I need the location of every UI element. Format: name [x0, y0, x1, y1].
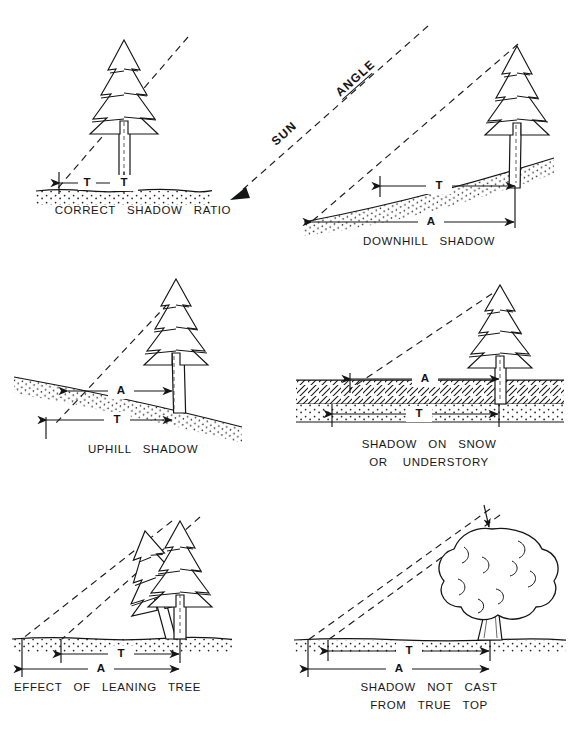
panel-uphill-shadow-caption: UPHILL SHADOW [0, 443, 286, 455]
dimension-T-label: T [117, 647, 124, 659]
panel-shadow-not-cast-caption-1: SHADOW NOT CAST [286, 681, 572, 693]
conifer-tree [90, 40, 158, 191]
panel-uphill-shadow: A T UPHILL SHADOW [0, 275, 286, 475]
dimension-T-label: T [405, 644, 412, 656]
panel-shadow-on-snow-caption-2: OR UNDERSTORY [286, 456, 572, 468]
dimension-T-label: T [120, 176, 127, 188]
panel-downhill-shadow: T A DOWNHILL SHADOW [286, 22, 572, 252]
dimension-T-label-center: T [83, 176, 90, 188]
panel-downhill-shadow-caption: DOWNHILL SHADOW [286, 235, 572, 247]
dimension-T-label: T [113, 413, 120, 425]
panel-shadow-on-snow-caption-1: SHADOW ON SNOW [286, 438, 572, 450]
panel-correct-shadow-ratio: T T CORRECT SHADOW RATIO [0, 12, 286, 227]
conifer-tree [144, 279, 208, 413]
panel-correct-shadow-ratio-caption: CORRECT SHADOW RATIO [0, 204, 286, 216]
dimension-A-label: A [427, 215, 435, 227]
dimension-T-label: T [415, 407, 422, 419]
panel-effect-of-leaning-tree: T A EFFECT OF LEANING TREE [0, 495, 286, 725]
dimension-A-label: A [421, 372, 429, 384]
dimension-A-label: A [117, 384, 125, 396]
dimension-A-label: A [97, 662, 105, 674]
dimension-T-label: T [435, 179, 442, 191]
broadleaf-tree [439, 528, 558, 640]
figure-sheet: SUN ANGLE [0, 0, 572, 738]
panel-shadow-on-snow: A T SHADOW ON SNOW OR UNDERSTORY [286, 275, 572, 485]
panel-shadow-not-cast-caption-2: FROM TRUE TOP [286, 699, 572, 711]
ground-stipple [294, 640, 566, 652]
panel-effect-of-leaning-tree-caption: EFFECT OF LEANING TREE [0, 681, 300, 693]
panel-shadow-not-cast-from-true-top: T A SHADOW NOT CAST FROM TRUE TOP [286, 495, 572, 725]
true-top-arrow [484, 505, 489, 527]
dimension-A-label: A [395, 662, 403, 674]
dimension-T: T T [59, 172, 138, 194]
